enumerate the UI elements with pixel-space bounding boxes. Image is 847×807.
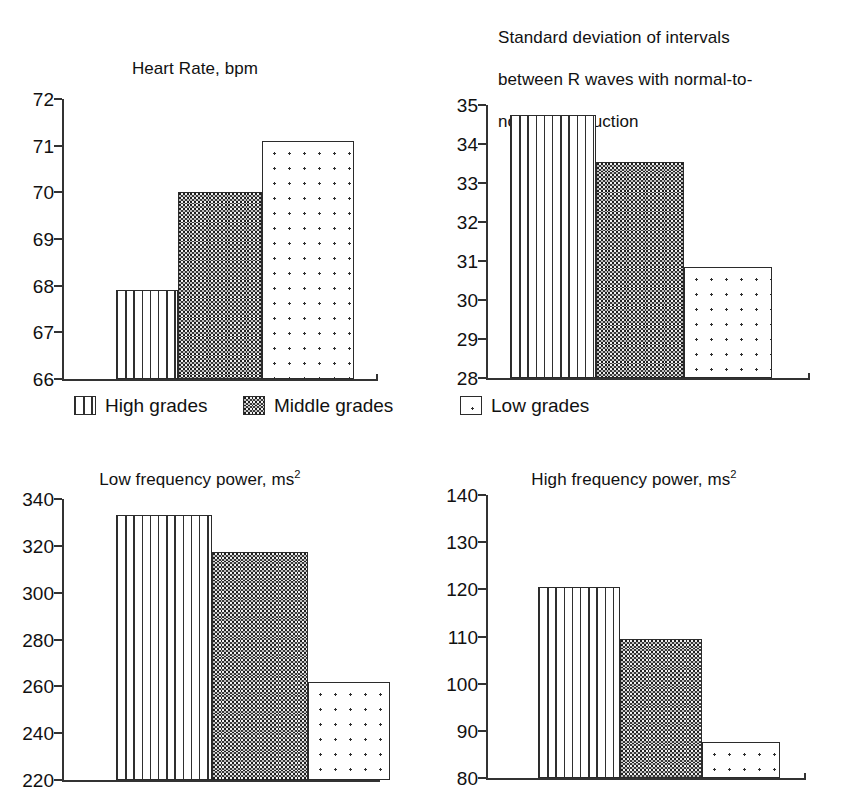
y-tick-high-frequency-power-90 [478,730,486,732]
y-axis-sdnn [486,105,488,380]
chart-title-sdnn: Standard deviation of intervals between … [498,6,838,132]
bar-sdnn-high-grades [510,115,596,378]
x-axis-sdnn [486,378,810,380]
y-tick-label-sdnn-34: 34 [0,135,478,154]
x-axis-end-cap-high-frequency-power [804,773,806,780]
chart-title-low-frequency-power: Low frequency power, ms2 [20,448,380,490]
y-tick-label-high-frequency-power-140: 140 [0,486,478,505]
y-tick-label-high-frequency-power-100: 100 [0,674,478,693]
y-tick-label-sdnn-30: 30 [0,291,478,310]
y-tick-label-high-frequency-power-90: 90 [0,721,478,740]
x-axis-end-cap-sdnn [808,373,810,380]
y-tick-sdnn-29 [478,338,486,340]
legend-swatch-middle-grades-icon [243,396,265,415]
y-tick-heart-rate-68 [54,285,62,287]
y-tick-label-sdnn-28: 28 [0,369,478,388]
y-tick-label-sdnn-33: 33 [0,174,478,193]
y-tick-label-high-frequency-power-130: 130 [0,533,478,552]
chart-title-sdnn-line-1: Standard deviation of intervals [498,28,730,47]
y-tick-high-frequency-power-80 [478,777,486,779]
y-tick-high-frequency-power-100 [478,683,486,685]
legend-swatch-low-grades-icon [460,396,482,415]
y-tick-high-frequency-power-140 [478,494,486,496]
bar-high-frequency-power-middle-grades [620,639,702,778]
chart-title-high-frequency-power-text: High frequency power, ms [531,470,730,489]
y-tick-sdnn-32 [478,221,486,223]
y-tick-label-sdnn-35: 35 [0,96,478,115]
y-tick-sdnn-31 [478,260,486,262]
bar-high-frequency-power-high-grades [538,587,620,778]
chart-title-low-frequency-power-superscript: 2 [294,468,300,480]
y-tick-label-high-frequency-power-120: 120 [0,580,478,599]
y-tick-heart-rate-69 [54,238,62,240]
y-tick-label-heart-rate-69: 69 [0,230,54,249]
chart-title-high-frequency-power: High frequency power, ms2 [454,448,814,490]
y-axis-high-frequency-power [486,495,488,780]
y-tick-sdnn-30 [478,299,486,301]
legend-item-high-grades: High grades [74,396,207,415]
y-tick-high-frequency-power-120 [478,588,486,590]
legend-label-high-grades: High grades [105,396,207,415]
y-tick-label-high-frequency-power-80: 80 [0,769,478,788]
y-tick-label-sdnn-31: 31 [0,252,478,271]
y-tick-sdnn-35 [478,104,486,106]
y-tick-label-high-frequency-power-110: 110 [0,627,478,646]
y-tick-high-frequency-power-130 [478,541,486,543]
y-tick-high-frequency-power-110 [478,636,486,638]
chart-title-high-frequency-power-superscript: 2 [730,468,736,480]
legend-label-middle-grades: Middle grades [274,396,393,415]
y-tick-sdnn-28 [478,377,486,379]
bar-sdnn-low-grades [684,267,772,378]
legend-item-middle-grades: Middle grades [243,396,393,415]
y-tick-label-sdnn-32: 32 [0,213,478,232]
bar-high-frequency-power-low-grades [702,742,780,778]
y-tick-sdnn-34 [478,143,486,145]
legend: High grades Middle grades Low grades [0,392,847,422]
bar-sdnn-middle-grades [596,162,684,378]
chart-title-sdnn-line-2: between R waves with normal-to- [498,70,752,89]
x-axis-high-frequency-power [486,778,806,780]
y-tick-sdnn-33 [478,182,486,184]
y-tick-label-sdnn-29: 29 [0,330,478,349]
legend-item-low-grades: Low grades [460,396,589,415]
legend-label-low-grades: Low grades [491,396,589,415]
legend-swatch-high-grades-icon [74,396,96,415]
